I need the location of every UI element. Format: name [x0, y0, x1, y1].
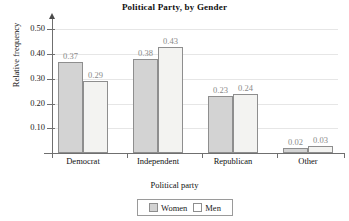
- category-label-republican: Republican: [193, 156, 273, 166]
- bar-other-men: [308, 146, 333, 153]
- value-label-independent-women: 0.38: [130, 48, 161, 58]
- legend-swatch-men-icon: [193, 203, 202, 212]
- y-tick-label-0.50: 0.50: [0, 23, 45, 33]
- value-label-independent-men: 0.43: [155, 36, 186, 46]
- bar-chart: Political Party, by Gender Relative freq…: [0, 0, 349, 221]
- bar-independent-men: [158, 47, 183, 153]
- x-axis-line: [44, 153, 344, 154]
- bar-series-layer: [52, 17, 340, 153]
- value-label-other-men: 0.03: [305, 135, 336, 145]
- x-axis-title: Political party: [0, 180, 349, 190]
- legend: Women Men: [137, 199, 233, 216]
- bar-republican-men: [233, 94, 258, 153]
- y-tick-label-0.10: 0.10: [0, 122, 45, 132]
- legend-label-women: Women: [161, 203, 187, 213]
- category-label-democrat: Democrat: [43, 156, 123, 166]
- category-separator-3: [277, 153, 278, 158]
- bar-republican-women: [208, 96, 233, 153]
- legend-label-men: Men: [205, 203, 221, 213]
- bar-other-women: [283, 148, 308, 153]
- category-label-independent: Independent: [118, 156, 198, 166]
- category-separator-4: [344, 153, 345, 158]
- value-label-democrat-women: 0.37: [55, 51, 86, 61]
- y-tick-label-0.40: 0.40: [0, 48, 45, 58]
- legend-item-men: Men: [193, 203, 221, 213]
- value-label-democrat-men: 0.29: [80, 70, 111, 80]
- category-separator-2: [202, 153, 203, 158]
- bar-democrat-men: [83, 81, 108, 153]
- category-separator-1: [127, 153, 128, 158]
- value-label-republican-men: 0.24: [230, 83, 261, 93]
- category-separator-0: [52, 153, 53, 158]
- y-tick-label-0.20: 0.20: [0, 98, 45, 108]
- chart-title: Political Party, by Gender: [0, 2, 349, 12]
- category-label-other: Other: [268, 156, 348, 166]
- legend-swatch-women-icon: [149, 203, 158, 212]
- legend-item-women: Women: [149, 203, 187, 213]
- y-tick-label-0.30: 0.30: [0, 73, 45, 83]
- bar-independent-women: [133, 59, 158, 153]
